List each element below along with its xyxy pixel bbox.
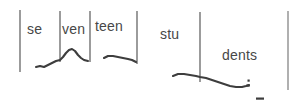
pitch-contour-seven bbox=[36, 49, 88, 67]
contour-mark-colon-upper bbox=[248, 80, 250, 82]
contour-mark-group bbox=[247, 80, 265, 100]
contour-mark-dash bbox=[256, 98, 264, 100]
syllable-label-teen: teen bbox=[95, 19, 123, 33]
pitch-contour-group bbox=[36, 49, 249, 87]
contour-canvas bbox=[0, 0, 307, 111]
syllable-label-dents: dents bbox=[222, 48, 257, 62]
contour-mark-colon-lower bbox=[247, 85, 250, 87]
syllable-label-stu: stu bbox=[160, 27, 179, 41]
pitch-contour-students bbox=[173, 74, 249, 87]
syllable-label-ven: ven bbox=[62, 22, 85, 36]
intonation-contour-figure: se ven teen stu dents bbox=[0, 0, 307, 111]
syllable-label-se: se bbox=[27, 22, 42, 36]
pitch-contour-teen bbox=[104, 56, 136, 62]
